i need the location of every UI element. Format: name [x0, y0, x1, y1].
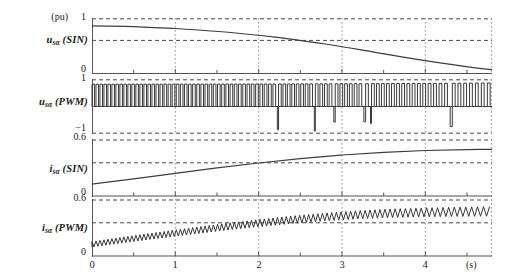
x-tick-2: 2 [249, 259, 269, 270]
plot-area-i-pwm [92, 199, 492, 257]
plot-svg-i-pwm [92, 199, 492, 257]
plot-svg-u-sin [92, 18, 492, 74]
plot-area-i-sin [92, 139, 492, 197]
y-tick-i-sin-top: 0.6 [48, 131, 86, 142]
curve-u-sin [92, 26, 492, 70]
x-tick-3: 3 [332, 259, 352, 270]
y-axis-label-u-pwm: usα (PWM) [2, 96, 88, 109]
y-axis-label-u-pwm-sub: sα [45, 100, 52, 109]
y-axis-label-i-pwm-sub: sα [45, 226, 52, 235]
plot-area-u-sin [92, 18, 492, 74]
y-axis-label-i-sin: isα (SIN) [10, 163, 88, 176]
x-axis-unit-label: (s) [466, 259, 477, 270]
x-minor-ticks-i-pwm [134, 252, 467, 257]
y-tick-i-pwm-bottom: 0 [54, 246, 86, 257]
curve-i-pwm [92, 207, 490, 248]
x-tick-1: 1 [165, 259, 185, 270]
plot-svg-i-sin [92, 139, 492, 197]
plot-svg-u-pwm [92, 79, 492, 134]
x-minor-ticks-i-sin [134, 192, 467, 197]
plot-area-u-pwm [92, 79, 492, 134]
y-axis-label-i-sin-paren: (SIN) [62, 163, 88, 174]
y-axis-label-u-sin: usα (SIN) [8, 34, 88, 47]
pwm-current-trace [92, 207, 490, 248]
curve-i-sin [92, 149, 492, 184]
y-axis-label-i-pwm-paren: (PWM) [55, 222, 88, 233]
x-tick-4: 4 [415, 259, 435, 270]
waveform-figure: usα (SIN) (pu) 1 0 [0, 0, 509, 280]
y-tick-u-pwm-top: 1 [54, 72, 86, 83]
y-tick-u-sin-top: 1 [54, 11, 86, 22]
y-axis-label-i-sin-sub: sα [53, 167, 60, 176]
y-axis-label-i-pwm: isα (PWM) [4, 222, 88, 235]
y-axis-label-u-pwm-paren: (PWM) [55, 96, 88, 107]
y-axis-label-u-sin-sub: sα [53, 38, 60, 47]
x-tick-0: 0 [82, 259, 102, 270]
y-axis-label-u-sin-paren: (SIN) [62, 34, 88, 45]
y-tick-i-pwm-top: 0.6 [48, 192, 86, 203]
x-minor-ticks-u-sin [134, 69, 467, 74]
